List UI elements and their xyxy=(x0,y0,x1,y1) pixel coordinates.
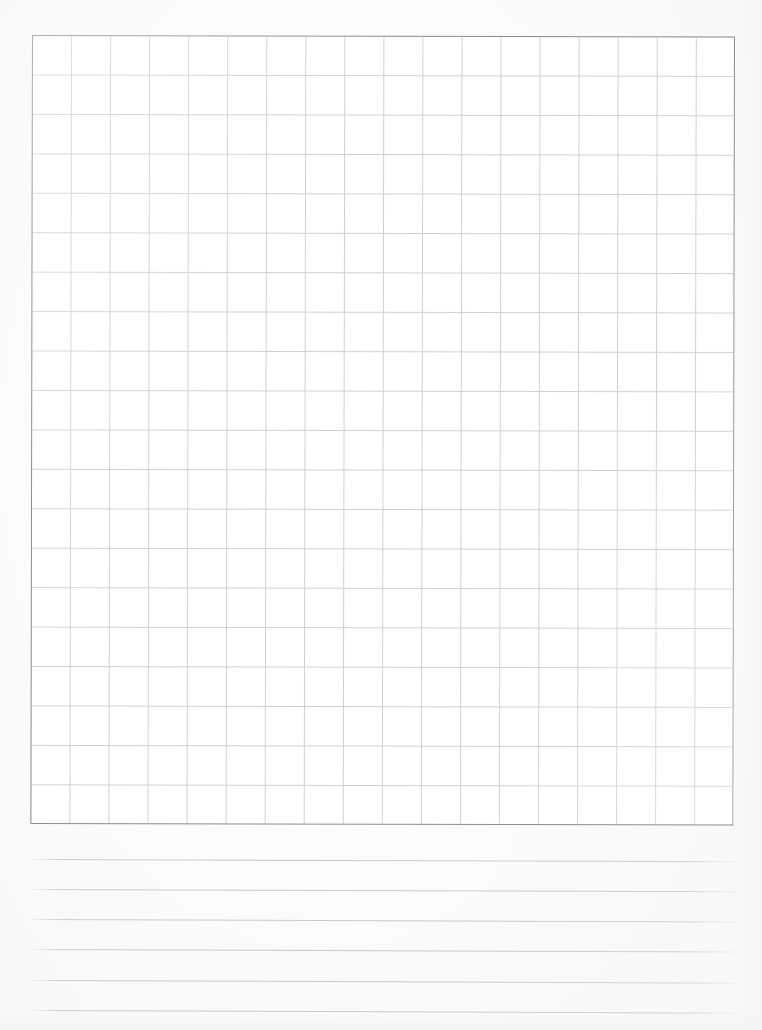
ruled-line[interactable] xyxy=(33,859,739,862)
ruled-line[interactable] xyxy=(33,980,739,984)
ruled-line[interactable] xyxy=(33,949,739,952)
ruled-line[interactable] xyxy=(33,889,739,892)
ruled-line[interactable] xyxy=(33,919,739,922)
ruled-line[interactable] xyxy=(33,1010,739,1014)
worksheet-page xyxy=(0,0,762,1030)
scan-edge-bottom xyxy=(0,1012,762,1030)
graph-paper-grid[interactable] xyxy=(30,35,735,825)
scan-edge-right xyxy=(740,0,762,1030)
